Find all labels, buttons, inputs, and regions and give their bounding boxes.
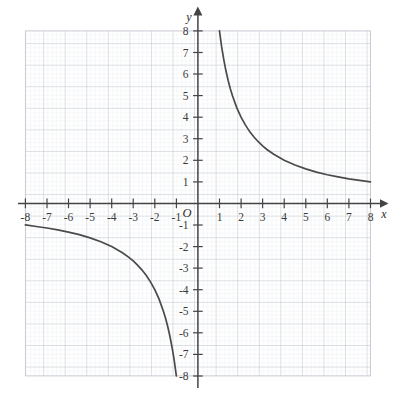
x-tick-label: -8 — [21, 211, 31, 223]
y-tick-label: 4 — [183, 111, 189, 123]
x-tick-label: -3 — [128, 211, 138, 223]
x-tick-label: -5 — [85, 211, 95, 223]
x-tick-label: -7 — [42, 211, 52, 223]
y-tick-label: 2 — [183, 154, 189, 166]
x-tick-label: 4 — [281, 211, 287, 223]
coordinate-plane-graph: -8 -7 -6 -5 -4 -3 -2 -1 1 2 3 4 5 6 7 8 … — [0, 0, 406, 402]
y-tick-label: -7 — [179, 348, 189, 360]
y-tick-label: -5 — [179, 305, 189, 317]
x-tick-label: -6 — [64, 211, 74, 223]
x-axis-label: x — [380, 207, 387, 221]
y-tick-label: -2 — [179, 241, 189, 253]
x-tick-label: -2 — [150, 211, 160, 223]
x-tick-label: 1 — [217, 211, 223, 223]
x-tick-label: 6 — [324, 211, 330, 223]
y-tick-label: 5 — [183, 90, 189, 102]
x-tick-label: 5 — [303, 211, 309, 223]
y-tick-label: -1 — [179, 219, 189, 231]
graph-figure: -8 -7 -6 -5 -4 -3 -2 -1 1 2 3 4 5 6 7 8 … — [0, 0, 406, 402]
x-tick-label: 2 — [238, 211, 244, 223]
y-tick-label: 1 — [183, 176, 189, 188]
x-tick-label: 7 — [346, 211, 352, 223]
origin-label: O — [182, 206, 191, 220]
y-tick-label: -6 — [179, 327, 189, 339]
y-tick-label: 8 — [183, 25, 189, 37]
y-tick-label: -4 — [179, 284, 189, 296]
y-axis-label: y — [185, 10, 192, 24]
y-tick-label: 3 — [183, 133, 189, 145]
x-tick-label: 3 — [260, 211, 266, 223]
x-tick-label: -4 — [107, 211, 117, 223]
x-tick-label: 8 — [368, 211, 374, 223]
y-tick-label: -8 — [179, 370, 189, 382]
y-tick-label: -3 — [179, 262, 189, 274]
y-tick-label: 7 — [183, 47, 189, 59]
y-tick-label: 6 — [183, 68, 189, 80]
